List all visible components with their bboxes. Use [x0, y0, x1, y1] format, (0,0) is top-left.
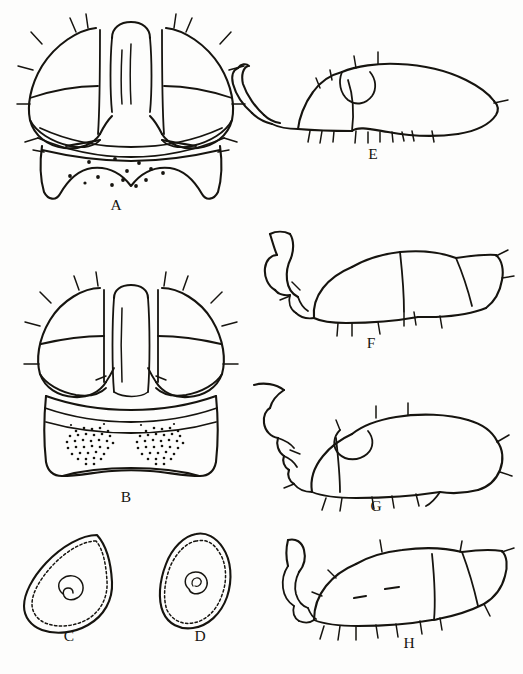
- panel-a-figure: A: [17, 14, 245, 213]
- panel-g-figure: G: [254, 384, 512, 514]
- panel-e-figure: E: [232, 52, 508, 162]
- stipple-patch-left: [66, 423, 115, 465]
- panel-h-figure: H: [283, 539, 514, 651]
- panel-label-g: G: [370, 497, 381, 514]
- panel-label-f: F: [367, 334, 376, 351]
- taxonomic-plate: A: [0, 0, 523, 674]
- panel-c-figure: C: [24, 535, 112, 644]
- panel-label-d: D: [194, 627, 205, 644]
- panel-label-b: B: [121, 488, 131, 505]
- panel-f-figure: F: [265, 232, 514, 351]
- panel-label-c: C: [64, 627, 74, 644]
- panel-d-figure: D: [160, 534, 231, 644]
- panel-label-e: E: [368, 145, 377, 162]
- panel-b-figure: B: [24, 272, 238, 505]
- panel-label-a: A: [110, 196, 122, 213]
- panel-label-h: H: [403, 634, 414, 651]
